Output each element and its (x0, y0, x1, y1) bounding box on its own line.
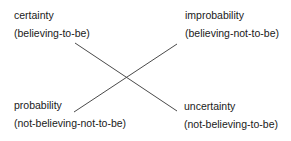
term-probability: probability (14, 99, 126, 112)
term-improbability: improbability (185, 9, 279, 22)
gloss-probability: (not-believing-not-to-be) (14, 117, 126, 130)
gloss-certainty: (believing-to-be) (14, 27, 90, 40)
term-uncertainty: uncertainty (184, 100, 278, 113)
corner-bottom-right: uncertainty (not-believing-to-be) (184, 100, 278, 131)
gloss-uncertainty: (not-believing-to-be) (184, 118, 278, 131)
corner-top-right: improbability (believing-not-to-be) (185, 9, 279, 40)
term-certainty: certainty (14, 9, 90, 22)
diagram-canvas: certainty (believing-to-be) improbabilit… (0, 0, 291, 141)
corner-top-left: certainty (believing-to-be) (14, 9, 90, 40)
corner-bottom-left: probability (not-believing-not-to-be) (14, 99, 126, 130)
gloss-improbability: (believing-not-to-be) (185, 27, 279, 40)
